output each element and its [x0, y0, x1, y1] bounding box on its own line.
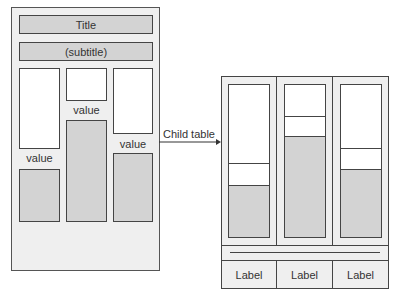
child-label-2: Label	[276, 260, 333, 289]
column-2-value-label: value	[66, 104, 107, 116]
column-3-value-label: value	[113, 138, 153, 150]
child-column-2-bar-frame	[284, 84, 326, 238]
child-column-2-bar	[285, 136, 325, 237]
column-2-bar	[66, 120, 107, 222]
child-column-1-empty	[229, 85, 269, 164]
child-label-3-text: Label	[347, 269, 374, 281]
child-column-1-bar	[229, 185, 269, 237]
child-column-2-empty	[285, 85, 325, 117]
column-3-empty-area	[113, 68, 153, 134]
child-column-3-label-space	[341, 148, 381, 170]
column-2-empty-area	[66, 68, 107, 101]
child-label-2-text: Label	[291, 269, 318, 281]
child-column-2-label-space	[285, 116, 325, 137]
column-1-value-label: value	[19, 152, 60, 164]
child-label-1: Label	[221, 260, 277, 289]
title-text: Title	[76, 19, 96, 31]
arrow-right-icon	[159, 137, 223, 147]
child-column-1-label-space	[229, 163, 269, 186]
child-column-3-bar	[341, 169, 381, 237]
column-1-empty-area	[19, 68, 60, 149]
axis-row	[221, 245, 389, 261]
subtitle-text: (subtitle)	[65, 46, 107, 58]
subtitle-bar: (subtitle)	[19, 42, 153, 61]
column-1-bar	[19, 169, 60, 222]
child-label-3: Label	[332, 260, 389, 289]
column-3-bar	[113, 153, 153, 222]
child-column-3-empty	[341, 85, 381, 149]
axis-line	[230, 252, 380, 253]
child-label-1-text: Label	[236, 269, 263, 281]
child-column-1-bar-frame	[228, 84, 270, 238]
title-bar: Title	[19, 15, 153, 34]
child-column-3-bar-frame	[340, 84, 382, 238]
